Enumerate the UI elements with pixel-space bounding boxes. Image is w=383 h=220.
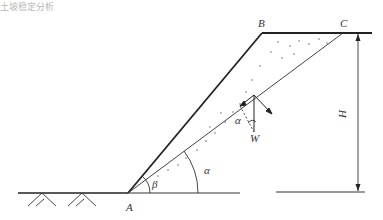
label-angle-alpha: α [204,164,210,176]
force-vectors [240,95,272,132]
label-point-b: B [258,17,265,29]
slope-face-ab [128,33,262,193]
label-angle-beta: β [151,178,158,190]
arrow-down-icon [356,184,361,191]
slip-plane-ac [128,33,343,193]
ground-hatch-icon [28,193,96,206]
label-height-h: H [336,109,348,119]
label-force-w: W [250,132,260,144]
slope-stability-diagram: A B C W β α α H [0,0,383,220]
label-point-c: C [340,17,348,29]
angle-arc-alpha [184,151,198,193]
angle-arc-beta [142,176,150,193]
arrow-up-icon [356,34,361,41]
label-point-a: A [125,201,133,213]
label-force-angle-alpha: α [235,114,241,126]
